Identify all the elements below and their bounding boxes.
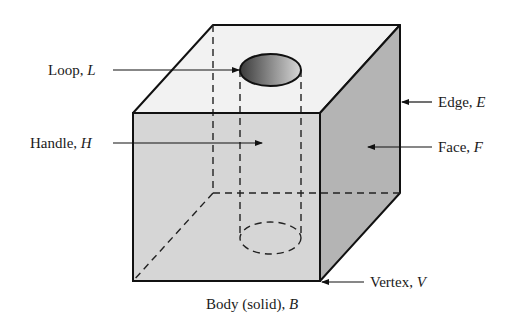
loop-label: Loop, L: [48, 63, 96, 78]
face-label-text: Face,: [438, 139, 474, 155]
edge-label-text: Edge,: [438, 94, 476, 110]
body-label-text: Body (solid),: [206, 296, 289, 312]
edge-label: Edge, E: [438, 95, 486, 110]
edge-label-symbol: E: [476, 94, 485, 110]
loop-label-symbol: L: [87, 62, 95, 78]
handle-label: Handle, H: [30, 136, 92, 151]
face-label-symbol: F: [474, 139, 483, 155]
hole-loop: [240, 54, 301, 86]
vertex-label-symbol: V: [417, 274, 426, 290]
vertex-label: Vertex, V: [370, 275, 426, 290]
body-label: Body (solid), B: [206, 297, 298, 312]
face-label: Face, F: [438, 140, 483, 155]
vertex-label-text: Vertex,: [370, 274, 417, 290]
handle-label-text: Handle,: [30, 135, 81, 151]
loop-label-text: Loop,: [48, 62, 87, 78]
solid-cube-diagram: [0, 0, 518, 329]
handle-label-symbol: H: [81, 135, 92, 151]
body-label-symbol: B: [289, 296, 298, 312]
front-face: [133, 113, 320, 281]
